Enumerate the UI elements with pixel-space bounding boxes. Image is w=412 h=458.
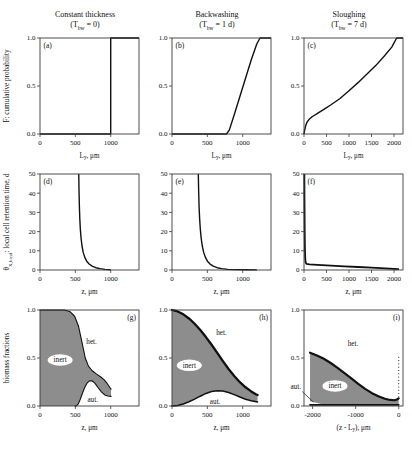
column-title-line2: (T	[199, 20, 207, 29]
x-tick-label: 500	[70, 411, 81, 419]
panel-b: 050010000.00.51.0Ly, μm(b)	[148, 34, 274, 170]
y-tick-label: 10	[293, 247, 301, 255]
x-tick-label: 500	[321, 275, 332, 283]
x-tick-label: 1000	[236, 411, 251, 419]
annotation-aut: aut.	[290, 383, 301, 391]
series-retention	[304, 174, 399, 269]
axes-frame	[40, 38, 139, 134]
y-tick-label: 50	[29, 170, 37, 178]
panel-h: 050010000.00.51.0z, μm(h)het.aut.inert	[148, 306, 274, 442]
annotation-het: het.	[348, 340, 359, 348]
y-tick-label: 40	[29, 190, 37, 198]
x-tick-label: 0	[302, 275, 306, 283]
x-axis-label: z, μm	[213, 288, 230, 296]
row2-ylabel: θX,local: local cell retention time, d	[0, 170, 14, 306]
y-tick-label: 30	[293, 209, 301, 217]
y-tick-label: 0.0	[159, 402, 168, 410]
y-tick-label: 0	[296, 266, 300, 274]
panel-letter: (c)	[308, 41, 317, 50]
x-tick-label: 500	[321, 139, 332, 147]
y-tick-label: 1.0	[291, 306, 300, 314]
axes-frame	[172, 174, 271, 270]
x-tick-label: 0	[170, 275, 174, 283]
y-tick-label: 0.0	[159, 130, 168, 138]
x-axis-label: z, μm	[81, 424, 98, 432]
series-retention	[79, 174, 111, 270]
x-tick-label: 500	[202, 275, 213, 283]
panel-i: -2000-100000.00.51.0(z - Ly), μm(i)het.i…	[280, 306, 406, 442]
series-F	[40, 38, 139, 134]
annotation-het: het.	[86, 338, 97, 346]
x-tick-label: 500	[70, 275, 81, 283]
x-tick-label: 0	[38, 275, 42, 283]
x-axis-label: Ly, μm	[79, 152, 99, 161]
x-tick-label: 1000	[342, 275, 357, 283]
column-title-line2: (T	[70, 20, 78, 29]
x-tick-label: 500	[70, 139, 81, 147]
y-tick-label: 10	[29, 247, 37, 255]
panel-g: 050010000.00.51.0z, μm(g)het.aut.inert	[16, 306, 142, 442]
panel-letter: (b)	[176, 41, 185, 50]
x-tick-label: 500	[202, 411, 213, 419]
x-tick-label: 2000	[387, 275, 402, 283]
series-retention	[198, 174, 257, 270]
y-tick-label: 0.5	[27, 354, 36, 362]
x-tick-label: 1000	[104, 139, 119, 147]
y-tick-label: 20	[293, 228, 301, 236]
axes-frame	[40, 174, 139, 270]
x-tick-label: 2000	[387, 139, 402, 147]
x-tick-label: -1000	[347, 411, 364, 419]
tbw-subscript: bw	[207, 25, 214, 31]
column-title-line1: Backwashing	[195, 10, 238, 19]
tbw-subscript: bw	[78, 25, 85, 31]
panel-letter: (e)	[176, 177, 185, 186]
annotation-het: het.	[216, 329, 227, 337]
panel-letter: (h)	[259, 313, 268, 322]
y-tick-label: 1.0	[27, 34, 36, 42]
x-axis-label: Ly, μm	[211, 152, 231, 161]
panel-letter: (g)	[127, 313, 136, 322]
panel-f: 050010001500200001020304050z, μm(f)	[280, 170, 406, 306]
annotation-aut: aut.	[87, 396, 98, 404]
panel-e: 0500100001020304050z, μm(e)	[148, 170, 274, 306]
panel-letter: (a)	[44, 41, 53, 50]
y-tick-label: 0.0	[291, 130, 300, 138]
x-tick-label: 1000	[342, 139, 357, 147]
series-F	[172, 38, 271, 134]
y-tick-label: 0.0	[27, 402, 36, 410]
x-tick-label: -2000	[304, 411, 321, 419]
axes-frame	[172, 38, 271, 134]
figure-grid: Constant thickness (Tbw = 0) Backwashing…	[0, 0, 412, 446]
y-tick-label: 1.0	[27, 306, 36, 314]
axes-frame	[304, 174, 403, 270]
y-tick-label: 0.5	[291, 82, 300, 90]
y-tick-label: 0.5	[159, 354, 168, 362]
column-title-line1: Sloughing	[333, 10, 366, 19]
header-gutter	[0, 4, 14, 34]
x-tick-label: 0	[397, 411, 401, 419]
x-tick-label: 1000	[236, 139, 251, 147]
y-tick-label: 0	[32, 266, 36, 274]
x-axis-label: z, μm	[213, 424, 230, 432]
panel-letter: (f)	[308, 177, 316, 186]
row1-ylabel: F: cumulative probability	[0, 34, 14, 170]
y-tick-label: 0.5	[159, 82, 168, 90]
y-tick-label: 0.5	[27, 82, 36, 90]
x-tick-label: 0	[170, 411, 174, 419]
x-tick-label: 0	[170, 139, 174, 147]
y-tick-label: 20	[29, 228, 37, 236]
x-tick-label: 1000	[236, 275, 251, 283]
x-axis-label: z, μm	[81, 288, 98, 296]
column-title-line2: (T	[331, 20, 339, 29]
y-tick-label: 10	[161, 247, 169, 255]
annotation-aut: aut.	[210, 398, 221, 406]
y-tick-label: 1.0	[159, 306, 168, 314]
x-axis-label: (z - Ly), μm	[337, 424, 371, 433]
column-title-backwashing: Backwashing (Tbw = 1 d)	[164, 10, 270, 34]
row3-ylabel: biomass fractions	[0, 306, 14, 446]
column-title-sloughing: Sloughing (Tbw = 7 d)	[296, 10, 402, 34]
y-tick-label: 0.5	[291, 354, 300, 362]
y-tick-label: 1.0	[291, 34, 300, 42]
x-tick-label: 0	[302, 139, 306, 147]
x-axis-label: Ly, μm	[343, 152, 363, 161]
